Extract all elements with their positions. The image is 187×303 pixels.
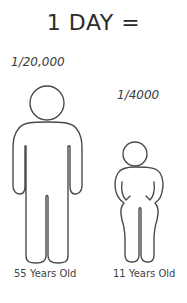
child-age-label: 11 Years Old [113,268,175,279]
child-body-outline [115,167,163,262]
adult-head [30,86,64,120]
child-head [123,142,147,166]
child-right-arm [146,182,154,200]
adult-age-label: 55 Years Old [14,268,76,279]
adult-figure-icon [13,86,82,263]
adult-body-outline [13,122,82,263]
child-left-arm [122,182,130,200]
child-figure-icon [115,142,163,262]
figures-illustration [0,0,187,303]
